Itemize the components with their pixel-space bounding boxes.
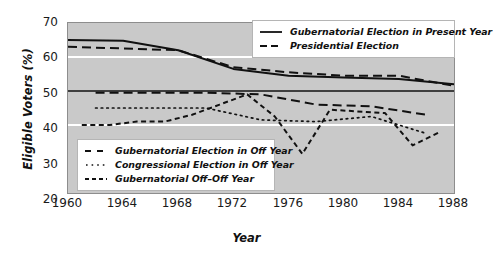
legend-bottom: Gubernatorial Election in Off Year Congr…: [77, 139, 275, 191]
legend-swatch-dashed-fine: [84, 173, 108, 185]
y-tick-label-70: 70: [24, 15, 58, 29]
legend-item-gubernatorial-present: Gubernatorial Election in Present Year: [259, 25, 446, 39]
legend-label-presidential: Presidential Election: [290, 40, 399, 52]
y-tick-label-50: 50: [24, 86, 58, 100]
chart-figure: Eligible Voters (%) Year 70 60 50 40 30 …: [0, 0, 493, 257]
legend-item-presidential: Presidential Election: [259, 39, 446, 53]
y-tick-label-60: 60: [24, 50, 58, 64]
legend-item-gubernatorial-off-off: Gubernatorial Off–Off Year: [84, 172, 266, 186]
legend-label-congressional-off: Congressional Election in Off Year: [115, 159, 294, 171]
x-tick-label-1980: 1980: [319, 196, 367, 210]
legend-swatch-dashed: [259, 40, 283, 52]
legend-swatch-dotted: [84, 159, 108, 171]
legend-label-gubernatorial-off: Gubernatorial Election in Off Year: [115, 145, 292, 157]
y-tick-label-40: 40: [24, 121, 58, 135]
x-tick-label-1968: 1968: [153, 196, 201, 210]
legend-item-gubernatorial-off: Gubernatorial Election in Off Year: [84, 144, 266, 158]
legend-swatch-dashed-off: [84, 145, 108, 157]
x-tick-label-1988: 1988: [429, 196, 477, 210]
x-tick-label-1972: 1972: [208, 196, 256, 210]
legend-swatch-solid: [259, 26, 283, 38]
legend-top: Gubernatorial Election in Present Year P…: [252, 20, 455, 58]
x-tick-label-1960: 1960: [43, 196, 91, 210]
legend-item-congressional-off: Congressional Election in Off Year: [84, 158, 266, 172]
legend-label-gubernatorial-off-off: Gubernatorial Off–Off Year: [115, 173, 254, 185]
x-tick-label-1976: 1976: [264, 196, 312, 210]
x-tick-label-1964: 1964: [98, 196, 146, 210]
y-tick-label-30: 30: [24, 157, 58, 171]
legend-label-gubernatorial-present: Gubernatorial Election in Present Year: [290, 26, 492, 38]
x-axis-title: Year: [0, 231, 493, 245]
x-tick-label-1984: 1984: [374, 196, 422, 210]
